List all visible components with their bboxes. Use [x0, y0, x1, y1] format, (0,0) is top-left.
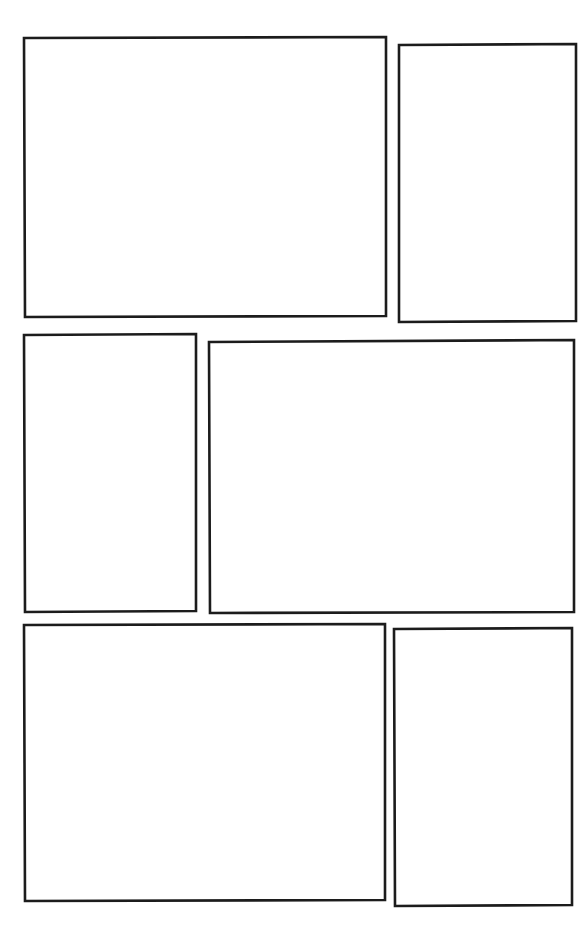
panel-3-surface[interactable]	[24, 334, 196, 612]
panel-1-surface[interactable]	[24, 37, 386, 317]
panel-6-surface[interactable]	[394, 628, 572, 906]
panel-5-surface[interactable]	[24, 624, 385, 901]
panel-layer: Panel 1 Panel 2 Panel 3 Panel 4 Panel 5	[0, 0, 588, 934]
panel-1[interactable]: Panel 1	[24, 37, 386, 317]
panel-2-surface[interactable]	[399, 44, 576, 322]
comic-page: Panel 1 Panel 2 Panel 3 Panel 4 Panel 5	[0, 0, 588, 934]
panel-5[interactable]: Panel 5	[24, 624, 385, 901]
panel-3[interactable]: Panel 3	[24, 334, 196, 612]
panel-4-surface[interactable]	[209, 340, 574, 613]
panel-4[interactable]: Panel 4	[209, 340, 574, 613]
panel-6[interactable]: Panel 6	[394, 628, 572, 906]
panel-2[interactable]: Panel 2	[399, 44, 576, 322]
